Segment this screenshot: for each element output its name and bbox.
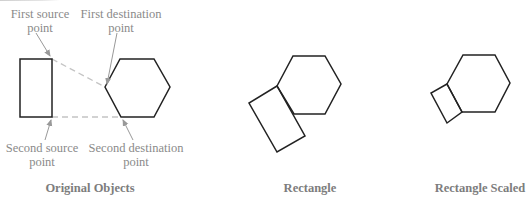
aligned-hexagon <box>277 56 341 114</box>
original-objects-panel <box>20 33 170 140</box>
first-destination-arrow <box>107 33 117 84</box>
original-hexagon <box>105 59 170 117</box>
first-source-label-line2: point <box>0 21 80 35</box>
rectangle-scaled-panel <box>431 55 510 123</box>
first-source-arrow <box>36 33 50 56</box>
rectangle-panel <box>249 56 341 152</box>
second-destination-label-line1: Second destination <box>84 141 188 155</box>
second-destination-label-line2: point <box>84 155 188 169</box>
original-rectangle <box>20 59 52 117</box>
aligned-rectangle <box>249 86 305 152</box>
second-destination-arrow <box>123 120 133 140</box>
first-destination-label: First destination point <box>76 7 166 35</box>
second-source-label: Second source point <box>0 141 84 169</box>
caption-rectangle: Rectangle <box>260 181 360 196</box>
second-source-label-line2: point <box>0 155 84 169</box>
caption-original-objects: Original Objects <box>20 181 160 196</box>
first-source-label: First source point <box>0 7 80 35</box>
scaled-hexagon <box>447 55 510 112</box>
caption-rectangle-scaled: Rectangle Scaled <box>420 181 530 196</box>
second-source-arrow <box>45 120 51 140</box>
first-guide-dashed-line <box>52 59 105 87</box>
first-destination-label-line1: First destination <box>76 7 166 21</box>
first-destination-label-line2: point <box>76 21 166 35</box>
second-destination-label: Second destination point <box>84 141 188 169</box>
first-source-label-line1: First source <box>0 7 80 21</box>
scaled-rectangle <box>431 84 462 123</box>
second-source-label-line1: Second source <box>0 141 84 155</box>
